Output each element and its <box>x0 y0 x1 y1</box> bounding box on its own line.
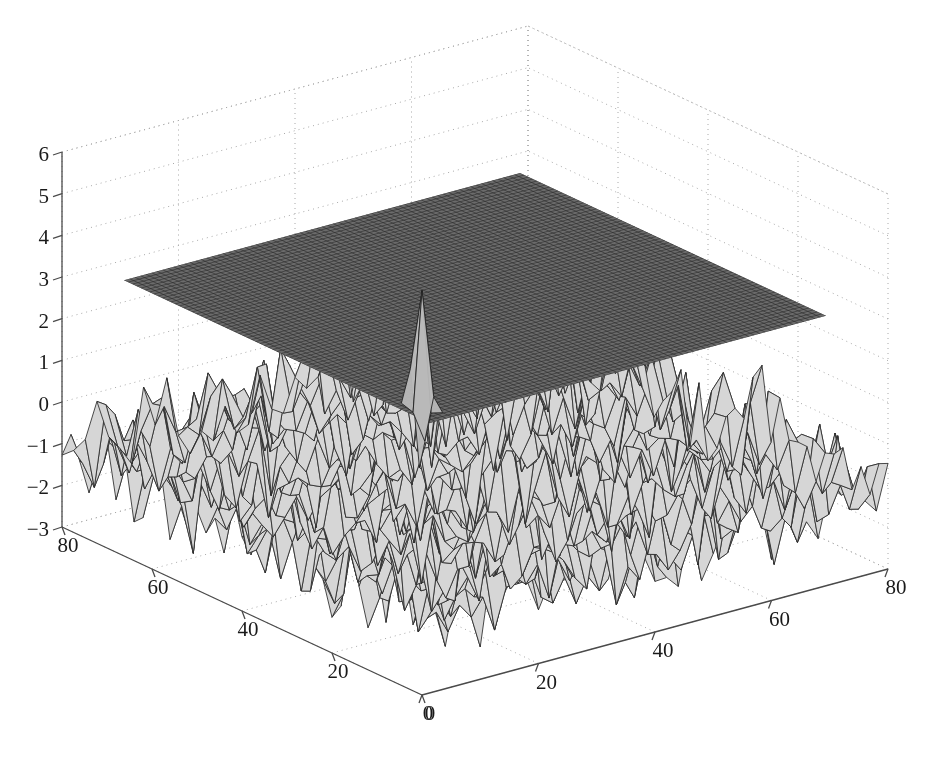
z-tick-label-neg2: −2 <box>27 477 49 498</box>
figure-3d-surface-plot: 6 5 4 3 2 1 0 −1 −2 −3 80 60 40 20 0 0 2… <box>0 0 940 758</box>
x-tick-label-80: 80 <box>886 577 907 598</box>
z-tick-label-neg3: −3 <box>27 519 49 540</box>
y-tick-label-80: 80 <box>58 535 79 556</box>
x-tick-label-60: 60 <box>769 609 790 630</box>
y-tick-label-60: 60 <box>148 577 169 598</box>
z-tick-label-6: 6 <box>39 144 50 165</box>
y-tick-label-40: 40 <box>238 619 259 640</box>
z-tick-label-neg1: −1 <box>27 435 49 456</box>
z-tick-label-5: 5 <box>39 185 50 206</box>
x-tick-label-0: 0 <box>425 703 436 724</box>
surface-plot-canvas <box>0 0 940 758</box>
z-tick-label-0: 0 <box>39 394 50 415</box>
z-tick-label-3: 3 <box>39 269 50 290</box>
x-tick-label-40: 40 <box>653 640 674 661</box>
z-tick-label-2: 2 <box>39 310 50 331</box>
z-tick-label-4: 4 <box>39 227 50 248</box>
x-tick-label-20: 20 <box>536 672 557 693</box>
y-tick-label-20: 20 <box>328 661 349 682</box>
z-tick-label-1: 1 <box>39 352 50 373</box>
